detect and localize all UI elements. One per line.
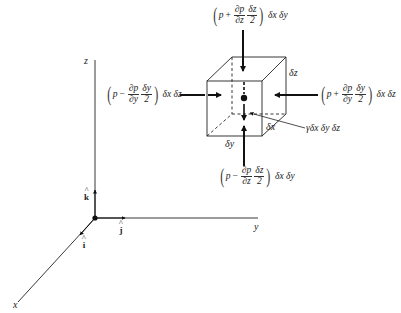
dx-label: δx xyxy=(266,122,275,132)
pressure-force-arrows xyxy=(180,30,318,166)
centroid-dot xyxy=(241,95,247,101)
bottom-force-expression: (p− ∂p∂z δz2 )δx δy xyxy=(219,166,295,186)
hidden-edge xyxy=(207,114,232,136)
dy-label: δy xyxy=(225,139,234,149)
cube-front-face xyxy=(207,81,262,136)
x-axis-label: x xyxy=(13,300,17,310)
right-force-expression: (p+ ∂p∂y δy2 )δx δz xyxy=(320,84,396,104)
diagram-canvas xyxy=(0,0,401,313)
i-unit-label: ^i xyxy=(82,236,86,250)
weight-label: γδx δy δz xyxy=(306,124,340,134)
weight-leader-line xyxy=(250,113,305,128)
k-unit-label: ^k xyxy=(84,188,89,202)
i-unit-vector xyxy=(80,218,95,235)
dz-label: δz xyxy=(289,68,298,78)
y-axis-label: y xyxy=(254,222,258,232)
top-force-expression: (p+ ∂p∂z δz2 )δx δy xyxy=(212,5,288,25)
z-axis-label: z xyxy=(84,56,88,66)
left-force-expression: (p− ∂p∂y δy2 )δx δz xyxy=(106,84,182,104)
j-unit-label: ^j xyxy=(119,221,123,235)
